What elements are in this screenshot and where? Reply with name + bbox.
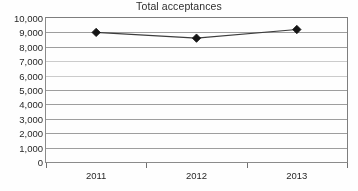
data-point-marker xyxy=(92,28,100,36)
y-axis-tick-label: 9,000 xyxy=(1,27,43,38)
y-axis-tick-label: 0 xyxy=(1,157,43,168)
data-series-line xyxy=(46,18,347,162)
y-axis-tick-label: 10,000 xyxy=(1,13,43,24)
x-axis-tick-mark xyxy=(46,163,47,168)
x-axis-tick-mark xyxy=(247,163,248,168)
x-axis-tick-marks xyxy=(45,163,348,169)
y-axis-tick-label: 8,000 xyxy=(1,41,43,52)
data-point-marker xyxy=(293,25,301,33)
y-axis-tick-label: 6,000 xyxy=(1,70,43,81)
line-chart: Total acceptances 01,0002,0003,0004,0005… xyxy=(0,0,358,191)
y-axis-tick-labels: 01,0002,0003,0004,0005,0006,0007,0008,00… xyxy=(0,17,43,163)
x-axis-tick-mark xyxy=(146,163,147,168)
x-axis-tick-label: 2012 xyxy=(186,170,207,181)
y-axis-tick-label: 7,000 xyxy=(1,56,43,67)
x-axis-tick-labels: 201120122013 xyxy=(45,170,348,184)
y-axis-tick-label: 3,000 xyxy=(1,113,43,124)
plot-area xyxy=(45,17,348,163)
x-axis-tick-mark xyxy=(347,163,348,168)
x-axis-tick-label: 2011 xyxy=(86,170,106,181)
y-axis-tick-label: 5,000 xyxy=(1,85,43,96)
y-axis-tick-label: 2,000 xyxy=(1,128,43,139)
data-point-marker xyxy=(192,34,200,42)
y-axis-tick-label: 4,000 xyxy=(1,99,43,110)
y-axis-tick-label: 1,000 xyxy=(1,142,43,153)
x-axis-tick-label: 2013 xyxy=(286,170,307,181)
chart-title: Total acceptances xyxy=(0,0,358,12)
